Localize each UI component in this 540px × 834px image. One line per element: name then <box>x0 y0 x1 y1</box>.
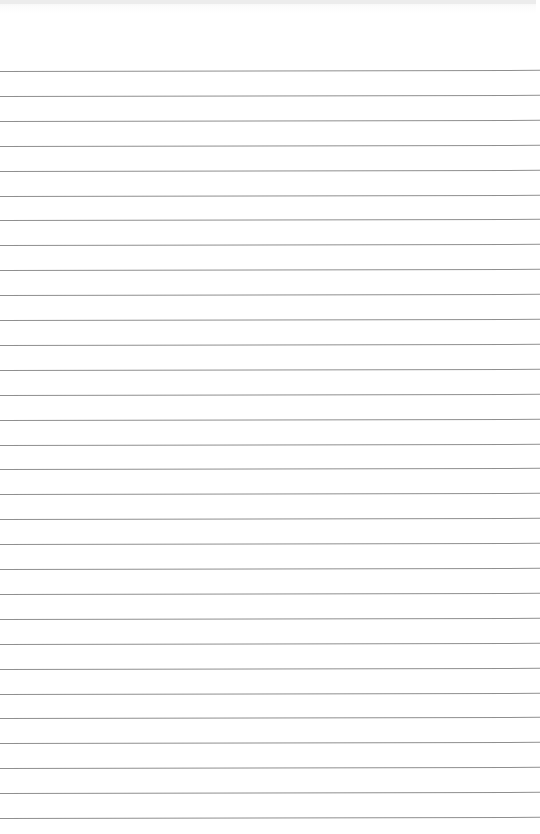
ruled-line <box>0 120 540 122</box>
ruled-line <box>0 244 540 246</box>
ruled-line <box>0 145 540 147</box>
ruled-line <box>0 70 540 72</box>
ruled-line <box>0 742 540 744</box>
ruled-line <box>0 543 540 545</box>
ruled-line <box>0 369 540 371</box>
ruled-line <box>0 643 540 645</box>
ruled-line <box>0 444 540 446</box>
ruled-line <box>0 817 540 819</box>
ruled-line <box>0 269 540 271</box>
ruled-line <box>0 170 540 172</box>
ruled-line <box>0 344 540 346</box>
ruled-line <box>0 618 540 620</box>
ruled-line <box>0 419 540 421</box>
ruled-line <box>0 468 540 470</box>
ruled-line <box>0 319 540 321</box>
ruled-line <box>0 518 540 520</box>
ruled-line <box>0 219 540 221</box>
ruled-line <box>0 568 540 570</box>
ruled-line <box>0 493 540 495</box>
ruled-line <box>0 294 540 296</box>
ruled-line <box>0 195 540 197</box>
ruled-line <box>0 717 540 719</box>
ruled-line <box>0 593 540 595</box>
ruled-line <box>0 767 540 769</box>
ruled-line <box>0 95 540 97</box>
ruled-line <box>0 792 540 794</box>
ruled-line <box>0 394 540 396</box>
ruled-line <box>0 668 540 670</box>
ruled-line <box>0 693 540 695</box>
